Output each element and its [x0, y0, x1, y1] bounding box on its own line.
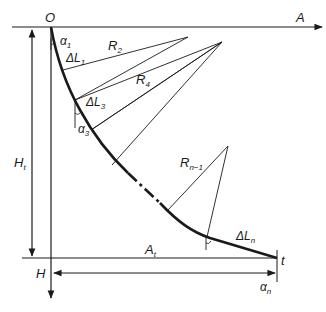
axis-h-label: H — [36, 266, 46, 281]
alphan-arc — [206, 241, 211, 244]
dl1-label: ΔL1 — [65, 51, 85, 67]
trajectory-curve-lower — [160, 203, 277, 258]
rn1-label: Rn−1 — [180, 155, 203, 172]
ht-label: Ht — [14, 155, 26, 172]
well-trajectory-diagram: O A H t Ht At α1 ΔL1 R2 R4 ΔL3 α3 Rn−1 Δ… — [0, 0, 326, 312]
dl3-label: ΔL3 — [85, 95, 106, 111]
alpha1-label: α1 — [60, 34, 71, 50]
alpha3-arc — [75, 113, 80, 115]
r2-label: R2 — [108, 38, 122, 55]
dln-label: ΔLn — [235, 229, 256, 245]
origin-label: O — [45, 10, 55, 25]
target-label: t — [281, 253, 286, 268]
trajectory-curve-dashed — [128, 173, 160, 203]
at-label: At — [144, 242, 157, 259]
alphan-label: αn — [260, 280, 272, 296]
r4-label: R4 — [136, 72, 150, 89]
axis-a-label: A — [295, 10, 305, 25]
